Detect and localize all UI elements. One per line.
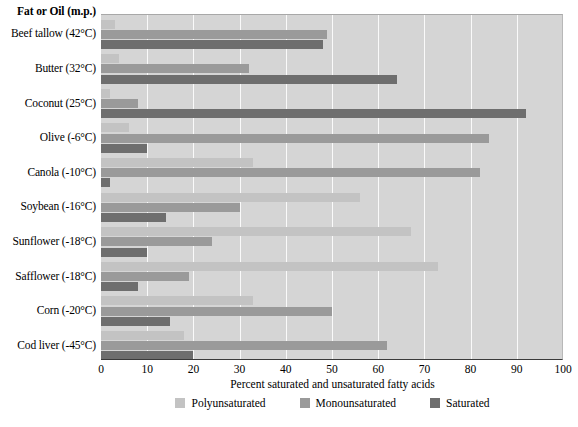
bar-polyunsaturated-2 — [101, 89, 110, 98]
x-axis-label: Percent saturated and unsaturated fatty … — [101, 378, 564, 390]
bar-saturated-9 — [101, 351, 193, 360]
bar-saturated-3 — [101, 144, 147, 153]
legend-swatch-icon — [430, 398, 440, 408]
category-label: Beef tallow (42°C) — [0, 27, 96, 39]
bar-monounsaturated-5 — [101, 203, 240, 212]
bar-saturated-6 — [101, 248, 147, 257]
x-tick-label: 40 — [280, 363, 292, 375]
x-axis-ticks: 0102030405060708090100 — [101, 361, 564, 377]
category-label: Canola (-10°C) — [0, 166, 96, 178]
category-label: Cod liver (-45°C) — [0, 339, 96, 351]
legend-label: Polyunsaturated — [191, 397, 265, 409]
category-label-column: Beef tallow (42°C)Butter (32°C)Coconut (… — [0, 14, 96, 360]
plot-area — [101, 14, 563, 360]
legend-item: Polyunsaturated — [175, 397, 265, 409]
bar-polyunsaturated-3 — [101, 123, 129, 132]
bar-monounsaturated-0 — [101, 30, 327, 39]
bar-saturated-0 — [101, 40, 323, 49]
category-label: Safflower (-18°C) — [0, 270, 96, 282]
bar-monounsaturated-4 — [101, 168, 480, 177]
bar-polyunsaturated-8 — [101, 296, 253, 305]
bar-polyunsaturated-6 — [101, 227, 411, 236]
x-tick-label: 10 — [141, 363, 153, 375]
gridline — [517, 15, 518, 359]
category-label: Olive (-6°C) — [0, 131, 96, 143]
bar-monounsaturated-3 — [101, 134, 489, 143]
bar-polyunsaturated-0 — [101, 20, 115, 29]
legend-item: Saturated — [430, 397, 489, 409]
x-tick-label: 30 — [234, 363, 246, 375]
gridline — [471, 15, 472, 359]
x-tick-label: 20 — [188, 363, 200, 375]
x-tick-label: 70 — [419, 363, 431, 375]
bar-saturated-1 — [101, 75, 397, 84]
x-tick-label: 100 — [554, 363, 571, 375]
category-label: Sunflower (-18°C) — [0, 235, 96, 247]
legend-swatch-icon — [175, 398, 185, 408]
bar-saturated-4 — [101, 178, 110, 187]
category-label: Corn (-20°C) — [0, 304, 96, 316]
category-label: Soybean (-16°C) — [0, 200, 96, 212]
x-tick-label: 0 — [98, 363, 104, 375]
bar-monounsaturated-7 — [101, 272, 189, 281]
category-label: Coconut (25°C) — [0, 97, 96, 109]
bar-polyunsaturated-4 — [101, 158, 253, 167]
bar-monounsaturated-8 — [101, 307, 332, 316]
bar-saturated-5 — [101, 213, 166, 222]
legend-label: Saturated — [446, 397, 489, 409]
bar-saturated-8 — [101, 317, 170, 326]
category-label: Butter (32°C) — [0, 62, 96, 74]
x-tick-label: 80 — [465, 363, 477, 375]
x-tick-label: 50 — [326, 363, 338, 375]
bar-monounsaturated-9 — [101, 341, 387, 350]
bar-polyunsaturated-9 — [101, 331, 184, 340]
bar-polyunsaturated-7 — [101, 262, 438, 271]
bar-monounsaturated-6 — [101, 237, 212, 246]
x-tick-label: 90 — [511, 363, 523, 375]
legend: PolyunsaturatedMonounsaturatedSaturated — [101, 397, 564, 409]
bar-polyunsaturated-5 — [101, 193, 360, 202]
bar-saturated-7 — [101, 282, 138, 291]
bar-polyunsaturated-1 — [101, 54, 119, 63]
bar-monounsaturated-1 — [101, 64, 249, 73]
gridline — [424, 15, 425, 359]
bar-monounsaturated-2 — [101, 99, 138, 108]
gridline — [332, 15, 333, 359]
legend-label: Monounsaturated — [316, 397, 396, 409]
gridline — [378, 15, 379, 359]
legend-swatch-icon — [300, 398, 310, 408]
bar-saturated-2 — [101, 109, 526, 118]
x-tick-label: 60 — [372, 363, 384, 375]
chart-page: Fat or Oil (m.p.) Beef tallow (42°C)Butt… — [0, 0, 578, 427]
legend-item: Monounsaturated — [300, 397, 396, 409]
